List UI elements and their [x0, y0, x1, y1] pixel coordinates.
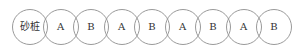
pile-layout-diagram: 砂桩 A B A B A B A B — [0, 0, 301, 54]
circle-label: B — [256, 9, 292, 45]
